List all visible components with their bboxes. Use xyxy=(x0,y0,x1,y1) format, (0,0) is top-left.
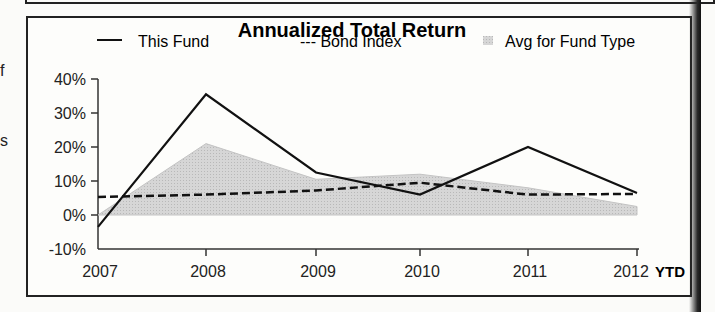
x-tick-label: 2008 xyxy=(190,263,226,280)
legend: This Fund --- Bond Index Avg for Fund Ty… xyxy=(97,33,635,50)
x-tick-label: 2009 xyxy=(300,263,336,280)
y-tick-label: 20% xyxy=(54,139,86,156)
x-tick-label: 2007 xyxy=(82,263,118,280)
y-axis: 40%30%20%10%0%-10% xyxy=(49,71,98,258)
legend-avg-fund-type: Avg for Fund Type xyxy=(505,33,635,50)
legend-this-fund: This Fund xyxy=(138,33,209,50)
legend-bond-index: --- Bond Index xyxy=(300,33,401,50)
y-tick-label: 0% xyxy=(63,207,86,224)
plot-area xyxy=(98,94,637,227)
x-tick-label: 2010 xyxy=(404,263,440,280)
avg-fund-type-area xyxy=(98,144,637,215)
x-tick-label: 2011 xyxy=(513,263,548,280)
y-tick-label: -10% xyxy=(49,241,86,258)
y-tick-label: 30% xyxy=(54,105,86,122)
x-tick-label: 2012 xyxy=(613,263,649,280)
x-axis-ytd-label: YTD xyxy=(655,263,685,280)
page-edge-shadow xyxy=(689,0,701,312)
y-tick-label: 40% xyxy=(54,71,86,88)
x-axis: 200720082009201020112012 xyxy=(82,249,649,280)
legend-area-swatch-icon xyxy=(483,36,493,45)
y-tick-label: 10% xyxy=(54,173,86,190)
